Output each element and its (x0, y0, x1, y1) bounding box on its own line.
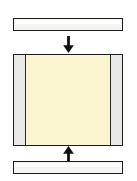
load-arrow-down-icon (62, 36, 75, 53)
top-platen (13, 18, 123, 31)
compression-loading-diagram (0, 0, 137, 181)
right-side-plate (110, 55, 122, 145)
left-side-plate (14, 55, 26, 145)
bottom-platen (13, 161, 123, 174)
specimen-core (26, 55, 110, 145)
specimen-assembly (13, 54, 123, 146)
